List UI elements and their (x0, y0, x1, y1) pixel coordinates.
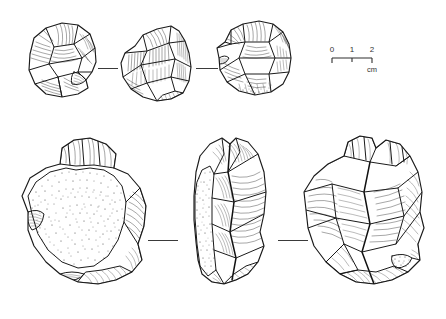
alignment-tick-top-left (98, 68, 118, 69)
scale-tick-0: 0 (330, 45, 335, 54)
scale-tick-1: 1 (350, 45, 355, 54)
artefact-bottom-right (292, 132, 438, 294)
alignment-tick-top-right (196, 68, 218, 69)
artefact-top-middle (113, 13, 205, 107)
artefact-top-right (209, 14, 303, 106)
alignment-tick-bottom-right (278, 240, 308, 241)
artefact-bottom-middle (172, 128, 282, 296)
artefact-top-left (16, 14, 108, 106)
alignment-tick-bottom-left (148, 240, 178, 241)
lithic-illustration-plate: 0 1 2 cm (0, 0, 446, 319)
scale-bar: 0 1 2 cm (326, 40, 390, 82)
scale-unit-label: cm (367, 65, 377, 74)
artefact-bottom-left (12, 134, 162, 294)
scale-tick-2: 2 (370, 45, 375, 54)
